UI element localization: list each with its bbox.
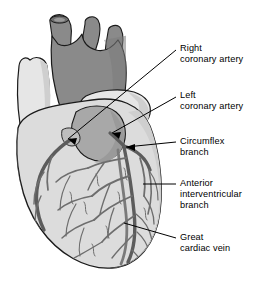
label-right-coronary-artery: Right coronary artery (180, 43, 243, 65)
brachiocephalic-lumen-inner (54, 18, 65, 22)
label-circumflex-branch: Circumflex branch (180, 136, 224, 158)
label-left-coronary-artery: Left coronary artery (180, 90, 243, 112)
label-great-cardiac-vein: Great cardiac vein (180, 232, 230, 254)
label-anterior-interventricular-branch: Anterior interventricular branch (180, 178, 242, 210)
heart-diagram-figure: Right coronary artery Left coronary arte… (0, 0, 263, 282)
heart-body-group (8, 99, 172, 272)
